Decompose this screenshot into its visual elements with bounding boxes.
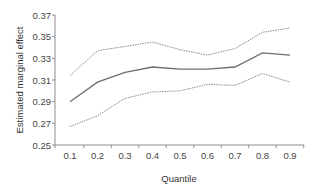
x-tick-label: 0.7 [228,150,241,161]
line-chart: 0.250.270.290.310.330.350.37 0.10.20.30.… [0,0,318,190]
y-tick-label: 0.27 [33,118,52,129]
x-tick-label: 0.6 [201,150,214,161]
x-tick-label: 0.8 [256,150,269,161]
y-tick-label: 0.37 [33,10,52,21]
y-tick-label: 0.29 [33,96,52,107]
series-line-lower-bound [70,74,290,127]
x-axis: 0.10.20.30.40.50.60.70.80.9 [55,145,304,161]
y-tick-label: 0.31 [33,75,52,86]
x-tick-label: 0.3 [118,150,131,161]
x-axis-title: Quantile [161,173,196,184]
x-tick-label: 0.9 [283,150,296,161]
y-axis-title: Estimated marginal effect [14,26,25,133]
y-tick-label: 0.35 [33,31,52,42]
y-axis: 0.250.270.290.310.330.350.37 [33,10,56,151]
y-tick-label: 0.25 [33,140,52,151]
x-tick-label: 0.5 [173,150,186,161]
x-tick-label: 0.4 [146,150,159,161]
series-line-estimate [70,53,290,102]
x-tick-label: 0.2 [91,150,104,161]
x-tick-label: 0.1 [63,150,76,161]
y-tick-label: 0.33 [33,53,52,64]
series-group [70,28,290,127]
